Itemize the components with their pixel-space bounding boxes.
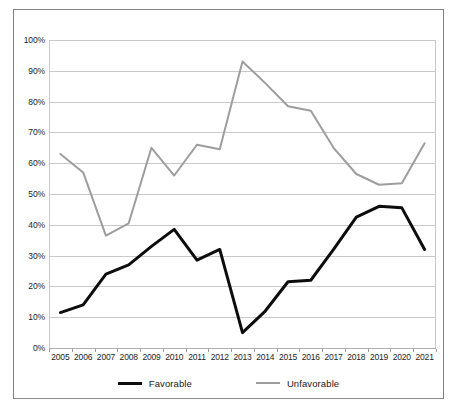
y-tick-label-60: 60% [0,158,45,168]
legend-divider [14,398,443,399]
y-tick-label-90: 90% [0,66,45,76]
x-tick-label-2006: 2006 [74,352,92,362]
x-tick-label-2015: 2015 [279,352,297,362]
x-tick-label-2014: 2014 [256,352,274,362]
chart-container: 0%10%20%30%40%50%60%70%80%90%100% 200520… [0,0,456,415]
legend-item-unfavorable[interactable]: Unfavorable [256,378,339,389]
x-tick-label-2012: 2012 [211,352,229,362]
y-tick-label-100: 100% [0,35,45,45]
y-tick-label-10: 10% [0,312,45,322]
y-tick-label-30: 30% [0,251,45,261]
y-tick-label-70: 70% [0,127,45,137]
chart-legend: Favorable Unfavorable [13,372,444,394]
y-tick-label-80: 80% [0,97,45,107]
y-tick-label-0: 0% [0,343,45,353]
y-tick-label-20: 20% [0,281,45,291]
y-tick-label-50: 50% [0,189,45,199]
series-line-favorable [60,206,424,332]
x-tick-label-2009: 2009 [142,352,160,362]
x-tickmark-end [436,349,437,352]
x-tick-label-2011: 2011 [188,352,205,362]
x-tick-label-2018: 2018 [347,352,365,362]
legend-item-favorable[interactable]: Favorable [118,378,192,389]
legend-label-favorable: Favorable [149,378,192,389]
legend-line-icon-favorable [118,382,142,385]
x-tick-label-2007: 2007 [97,352,115,362]
x-tick-label-2017: 2017 [324,352,342,362]
y-tick-label-40: 40% [0,220,45,230]
x-axis-tick-labels: 2005200620072008200920102011201220132014… [49,352,436,368]
x-tick-label-2021: 2021 [416,352,434,362]
legend-label-unfavorable: Unfavorable [287,378,339,389]
x-tick-label-2008: 2008 [120,352,138,362]
x-tick-label-2016: 2016 [302,352,320,362]
data-series-lines [49,40,436,349]
x-tick-label-2019: 2019 [370,352,388,362]
legend-line-icon-unfavorable [256,382,280,384]
y-axis-tick-labels: 0%10%20%30%40%50%60%70%80%90%100% [0,0,45,415]
x-tick-label-2013: 2013 [233,352,251,362]
x-tick-label-2020: 2020 [393,352,411,362]
x-tick-label-2005: 2005 [51,352,69,362]
x-tick-label-2010: 2010 [165,352,183,362]
